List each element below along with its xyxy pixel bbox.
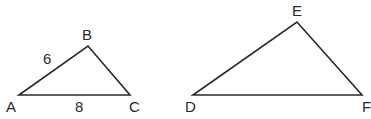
vertex-label-d: D [185, 98, 196, 115]
vertex-label-e: E [292, 2, 302, 19]
triangle-def-shape [193, 22, 362, 95]
triangle-def: D E F [185, 2, 371, 115]
vertex-label-f: F [362, 98, 371, 115]
side-label-ac: 8 [75, 98, 83, 115]
triangle-abc-shape [19, 46, 130, 95]
side-label-ab: 6 [43, 50, 51, 67]
triangle-abc: A B C 6 8 [6, 26, 140, 115]
vertex-label-c: C [129, 98, 140, 115]
vertex-label-a: A [6, 98, 16, 115]
vertex-label-b: B [82, 26, 92, 43]
diagram: A B C 6 8 D E F [0, 0, 371, 119]
